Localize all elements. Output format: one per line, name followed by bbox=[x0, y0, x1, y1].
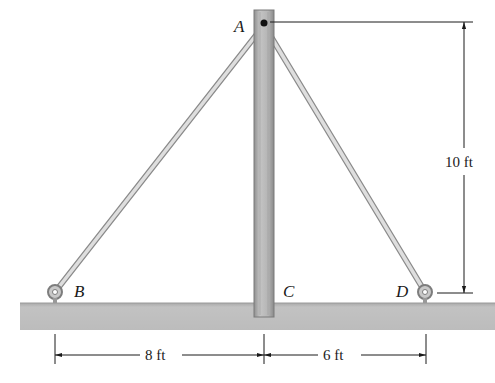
label-cd: 6 ft bbox=[323, 347, 344, 363]
dimension-bc: 8 ft bbox=[55, 334, 264, 364]
anchor-d bbox=[418, 285, 432, 303]
label-a: A bbox=[233, 17, 245, 36]
wire-ab bbox=[55, 25, 264, 292]
dimension-height: 10 ft bbox=[270, 22, 474, 293]
dimension-cd: 6 ft bbox=[264, 334, 426, 364]
wire-ad bbox=[264, 25, 425, 292]
diagram-canvas: A B C D 10 ft 8 ft 6 ft bbox=[0, 0, 495, 383]
label-d: D bbox=[395, 282, 409, 301]
label-b: B bbox=[74, 282, 85, 301]
label-bc: 8 ft bbox=[145, 347, 166, 363]
label-height: 10 ft bbox=[445, 154, 474, 170]
pole bbox=[254, 10, 274, 317]
pole-diagram: A B C D 10 ft 8 ft 6 ft bbox=[0, 0, 495, 383]
point-a-dot bbox=[261, 20, 268, 27]
anchor-b bbox=[48, 285, 62, 303]
label-c: C bbox=[283, 282, 295, 301]
